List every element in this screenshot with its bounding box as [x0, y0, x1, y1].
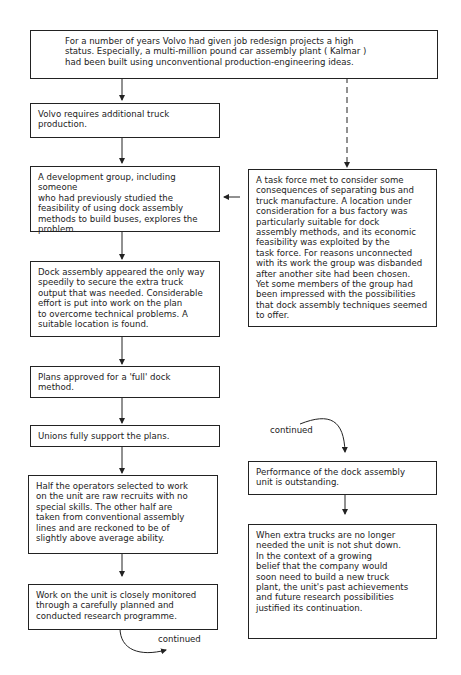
box-text: For a number of years Volvo had given jo… — [38, 36, 430, 67]
box-plans-approved: Plans approved for a 'full' dock method. — [30, 366, 220, 398]
continued-label-bottom: continued — [158, 634, 201, 644]
box-continuation: When extra trucks are no longer needed t… — [248, 524, 437, 639]
box-performance: Performance of the dock assembly unit is… — [248, 461, 437, 495]
box-development-group: A development group, including someone w… — [30, 166, 220, 232]
box-dock-assembly: Dock assembly appeared the only way spee… — [30, 261, 220, 337]
box-text: Work on the unit is closely monitored th… — [36, 590, 210, 621]
box-research-programme: Work on the unit is closely monitored th… — [28, 584, 218, 630]
box-unions-support: Unions fully support the plans. — [30, 425, 220, 447]
box-text: Half the operators selected to work on t… — [36, 481, 210, 543]
box-text: Dock assembly appeared the only way spee… — [38, 267, 212, 329]
box-text: Unions fully support the plans. — [38, 431, 212, 441]
box-task-force: A task force met to consider some conseq… — [248, 169, 437, 327]
box-volvo-background: For a number of years Volvo had given jo… — [30, 30, 438, 79]
box-text: When extra trucks are no longer needed t… — [256, 530, 429, 613]
box-text: Performance of the dock assembly unit is… — [256, 467, 429, 488]
box-truck-requirement: Volvo requires additional truck producti… — [30, 103, 220, 138]
continued-label-top: continued — [270, 425, 313, 435]
box-text: Volvo requires additional truck producti… — [38, 109, 212, 130]
box-text: A task force met to consider some conseq… — [256, 175, 429, 321]
box-text: Plans approved for a 'full' dock method. — [38, 372, 212, 393]
box-operators-selection: Half the operators selected to work on t… — [28, 475, 218, 554]
box-text: A development group, including someone w… — [38, 172, 212, 234]
